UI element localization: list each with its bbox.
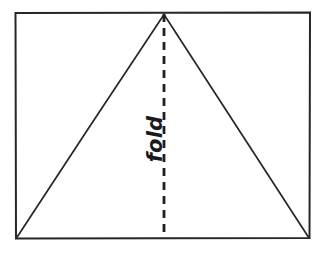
fold-diagram-canvas: fold	[0, 0, 324, 255]
fold-diagram-figure: fold	[0, 0, 324, 255]
fold-label: fold	[143, 115, 167, 162]
